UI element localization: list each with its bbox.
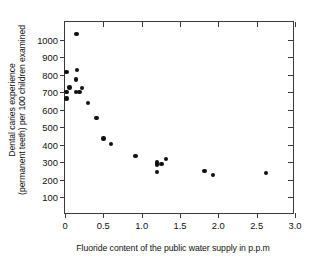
x-axis-tick: [180, 213, 181, 218]
y-axis-tick-right: [288, 110, 293, 111]
data-point: [155, 170, 159, 174]
x-axis-tick-top: [103, 22, 104, 27]
x-axis-tick-top: [295, 22, 296, 27]
plot-inner: [65, 22, 293, 213]
y-axis-tick-right: [288, 145, 293, 146]
x-axis-tick-top: [218, 22, 219, 27]
data-point: [264, 171, 268, 175]
y-axis-tick-label: 200: [42, 174, 58, 185]
y-axis-tick: [60, 40, 65, 41]
x-axis-tick: [103, 213, 104, 218]
y-axis-tick: [60, 127, 65, 128]
x-axis-tick: [218, 213, 219, 218]
plot-area: 100200300400500600700800900100000.51.01.…: [64, 21, 294, 214]
y-axis-tick-label: 600: [42, 104, 58, 115]
y-axis-tick-label: 1000: [37, 34, 58, 45]
y-axis-tick: [60, 92, 65, 93]
x-axis-title: Fluoride content of the public water sup…: [38, 243, 308, 253]
x-axis-tick-label: 3.0: [288, 220, 301, 231]
y-axis-tick: [60, 57, 65, 58]
x-axis-tick-label: 2.5: [250, 220, 263, 231]
x-axis-tick: [295, 213, 296, 218]
data-point: [133, 154, 137, 158]
y-axis-tick: [60, 145, 65, 146]
y-axis-tick: [60, 110, 65, 111]
data-point: [74, 32, 78, 36]
y-axis-tick-label: 800: [42, 69, 58, 80]
y-axis-tick-label: 900: [42, 52, 58, 63]
y-axis-tick-right: [288, 75, 293, 76]
x-axis-tick-top: [142, 22, 143, 27]
y-axis-tick-label: 300: [42, 157, 58, 168]
y-axis-tick-label: 400: [42, 139, 58, 150]
data-point: [67, 85, 71, 89]
data-point: [64, 70, 68, 74]
data-point: [202, 169, 206, 173]
data-point: [159, 162, 163, 166]
x-axis-tick-top: [257, 22, 258, 27]
x-axis-tick-top: [180, 22, 181, 27]
y-axis-tick-right: [288, 92, 293, 93]
data-point: [75, 68, 79, 72]
x-axis-tick-label: 0.5: [97, 220, 110, 231]
y-axis-tick-right: [288, 162, 293, 163]
x-axis-tick: [257, 213, 258, 218]
data-point: [101, 136, 105, 140]
y-axis-tick-label: 700: [42, 87, 58, 98]
data-point: [211, 173, 215, 177]
y-axis-tick-label: 500: [42, 122, 58, 133]
data-point: [109, 142, 113, 146]
x-axis-tick: [142, 213, 143, 218]
x-axis-tick-label: 2.0: [212, 220, 225, 231]
y-axis-tick: [60, 197, 65, 198]
y-axis-tick-right: [288, 197, 293, 198]
data-point: [77, 90, 81, 94]
y-axis-title-container: Dental caries experience (permanent teet…: [0, 0, 34, 220]
data-point: [164, 157, 168, 161]
data-point: [74, 77, 78, 81]
y-axis-tick-right: [288, 40, 293, 41]
scatter-chart-figure: Dental caries experience (permanent teet…: [0, 0, 313, 267]
x-axis-tick-label: 1.5: [173, 220, 186, 231]
y-axis-tick-right: [288, 57, 293, 58]
y-axis-title: Dental caries experience (permanent teet…: [7, 25, 28, 195]
data-point: [64, 96, 68, 100]
y-axis-tick: [60, 180, 65, 181]
y-axis-title-line-1: Dental caries experience: [7, 25, 17, 195]
y-axis-tick-label: 100: [42, 192, 58, 203]
x-axis-tick-label: 0: [62, 220, 67, 231]
data-point: [64, 90, 68, 94]
y-axis-title-line-2: (permanent teeth) per 100 children exami…: [17, 25, 27, 195]
y-axis-tick: [60, 162, 65, 163]
y-axis-tick: [60, 75, 65, 76]
data-point: [94, 116, 98, 120]
x-axis-tick: [65, 213, 66, 218]
x-axis-tick-label: 1.0: [135, 220, 148, 231]
data-point: [86, 101, 90, 105]
y-axis-tick-right: [288, 180, 293, 181]
y-axis-tick-right: [288, 127, 293, 128]
